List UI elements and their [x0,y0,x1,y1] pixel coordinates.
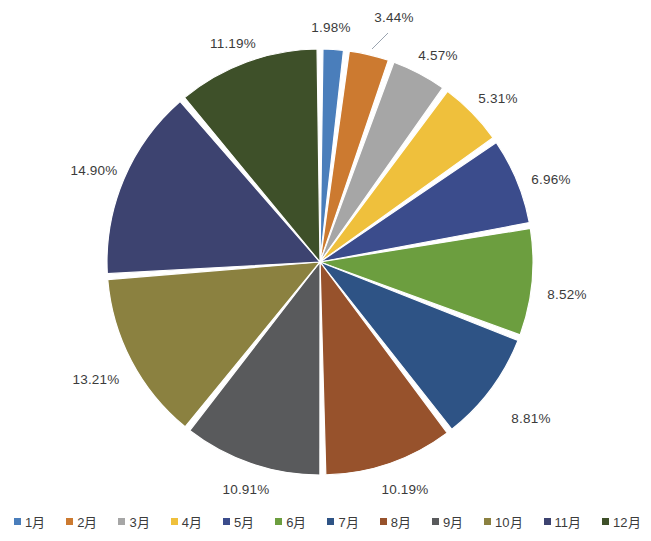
pie-slice-group [107,49,533,475]
legend-item[interactable]: 8月 [380,512,411,531]
legend-item-label: 3月 [129,512,149,531]
legend-swatch-icon [602,518,609,525]
legend-item-label: 7月 [338,512,358,531]
pie-plot-area: 1.98%3.44%4.57%5.31%6.96%8.52%8.81%10.19… [0,0,651,498]
legend-swatch-icon [484,518,491,525]
pie-data-label: 13.21% [73,372,120,387]
legend-item[interactable]: 12月 [602,512,640,531]
legend-swatch-icon [66,518,73,525]
legend-item[interactable]: 7月 [327,512,358,531]
pie-data-label: 10.91% [223,482,270,497]
legend-swatch-icon [275,518,282,525]
legend-item[interactable]: 4月 [171,512,202,531]
leader-line-3.44 [372,33,388,49]
legend-item-label: 10月 [495,512,522,531]
pie-svg [0,0,651,498]
legend-item-label: 9月 [443,512,463,531]
chart-legend: 1月2月3月4月5月6月7月8月9月10月11月12月 [0,508,651,534]
legend-item[interactable]: 10月 [484,512,522,531]
pie-data-label: 5.31% [478,91,517,106]
legend-swatch-icon [380,518,387,525]
legend-item-label: 11月 [555,512,582,531]
pie-data-label: 1.98% [311,20,350,35]
legend-swatch-icon [327,518,334,525]
legend-item-label: 4月 [182,512,202,531]
legend-swatch-icon [118,518,125,525]
legend-swatch-icon [14,518,21,525]
legend-item-label: 12月 [613,512,640,531]
pie-data-label: 4.57% [418,48,457,63]
legend-item[interactable]: 6月 [275,512,306,531]
legend-item-label: 6月 [286,512,306,531]
pie-data-label: 14.90% [71,163,118,178]
leader-line-group [372,33,388,49]
legend-item-label: 2月 [77,512,97,531]
legend-swatch-icon [432,518,439,525]
legend-item[interactable]: 11月 [544,512,582,531]
legend-item[interactable]: 3月 [118,512,149,531]
legend-item[interactable]: 5月 [223,512,254,531]
legend-item-label: 5月 [234,512,254,531]
pie-data-label: 11.19% [210,36,256,51]
legend-item[interactable]: 2月 [66,512,97,531]
pie-data-label: 3.44% [374,10,413,25]
legend-swatch-icon [223,518,230,525]
legend-item[interactable]: 1月 [14,512,45,531]
pie-data-label: 8.81% [511,411,550,426]
pie-data-label: 8.52% [547,287,586,302]
legend-item-label: 1月 [25,512,45,531]
legend-item[interactable]: 9月 [432,512,463,531]
pie-data-label: 10.19% [382,482,429,497]
legend-swatch-icon [544,518,551,525]
legend-swatch-icon [171,518,178,525]
legend-item-label: 8月 [391,512,411,531]
pie-chart: 1.98%3.44%4.57%5.31%6.96%8.52%8.81%10.19… [0,0,651,541]
pie-data-label: 6.96% [531,172,570,187]
